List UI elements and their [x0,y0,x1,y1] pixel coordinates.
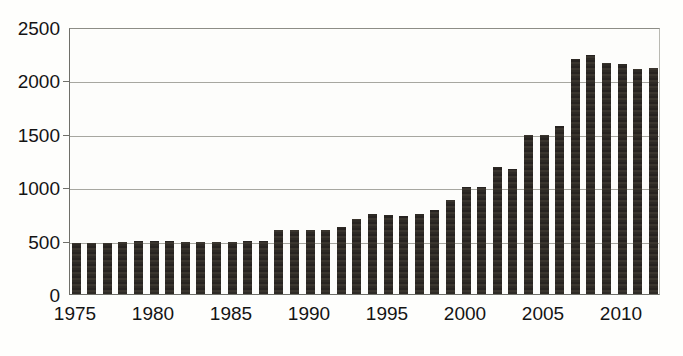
bar [87,243,96,294]
bar [555,126,564,294]
bar [165,241,174,294]
bar [524,135,533,294]
x-tick-label: 2000 [434,303,496,325]
bar [259,241,268,294]
bar [618,64,627,294]
x-tick-label: 1995 [356,303,418,325]
bar [134,241,143,294]
bar [368,214,377,294]
bar-series [70,29,659,294]
bar [633,69,642,294]
bar [337,227,346,294]
x-tick-label: 1975 [44,303,106,325]
bar [508,169,517,294]
bar [212,242,221,294]
bar [150,241,159,294]
x-tick-label: 1990 [278,303,340,325]
bar [415,214,424,294]
x-tick-label: 1985 [200,303,262,325]
bar [306,230,315,294]
bar [118,242,127,294]
y-tick-label: 1500 [0,126,60,145]
bar [462,187,471,294]
bar [399,216,408,294]
bar-chart: 05001000150020002500 1975198019851990199… [0,0,683,356]
bar [196,242,205,294]
bar [477,187,486,294]
bar [571,59,580,294]
bar [430,210,439,294]
y-tick-label: 2000 [0,72,60,91]
bar [586,55,595,294]
bar [352,219,361,294]
y-tick-label: 2500 [0,19,60,38]
plot-area [69,28,660,295]
bar [181,242,190,294]
bar [321,230,330,294]
x-tick-label: 2010 [590,303,652,325]
bar [649,68,658,294]
x-tick-label: 2005 [512,303,574,325]
bar [103,243,112,294]
bar [446,200,455,294]
y-tick-label: 1000 [0,179,60,198]
bar [228,242,237,294]
y-tick-label: 500 [0,233,60,252]
bar [274,230,283,294]
bar [602,63,611,294]
bar [384,215,393,294]
bar [72,243,81,294]
bar [290,230,299,294]
bar [243,241,252,294]
bar [540,135,549,294]
bar [493,167,502,294]
x-tick-label: 1980 [122,303,184,325]
